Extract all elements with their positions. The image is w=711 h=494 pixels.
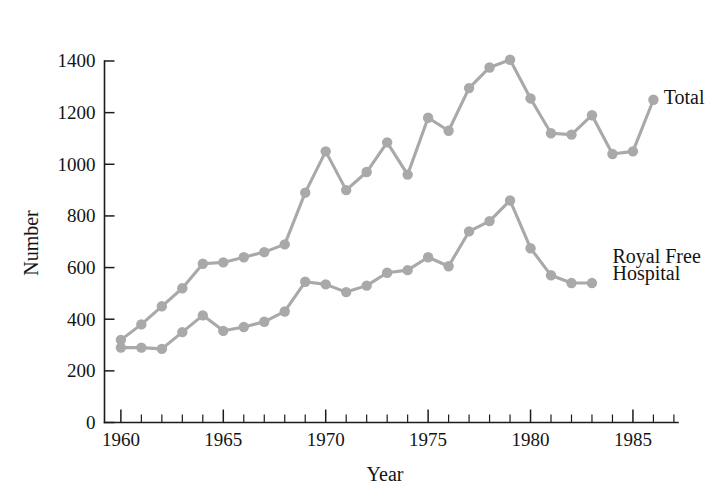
- x-axis-tick-label: 1980: [512, 429, 550, 450]
- series-label: Total: [664, 86, 705, 108]
- series-data-point: [525, 243, 535, 253]
- series-data-point: [443, 126, 453, 136]
- series-data-point: [280, 239, 290, 249]
- y-axis-tick-label: 1000: [58, 154, 96, 175]
- x-axis-tick-label: 1970: [307, 429, 345, 450]
- series-data-point: [382, 137, 392, 147]
- series-data-point: [628, 146, 638, 156]
- series-data-point: [423, 113, 433, 123]
- series-data-point: [382, 268, 392, 278]
- series-data-point: [259, 317, 269, 327]
- series-data-point: [546, 128, 556, 138]
- series-data-point: [361, 280, 371, 290]
- series-data-point: [546, 270, 556, 280]
- series-data-point: [177, 327, 187, 337]
- series-data-point: [566, 129, 576, 139]
- y-axis-tick-label: 1200: [58, 102, 96, 123]
- series-data-point: [341, 287, 351, 297]
- series-data-point: [136, 319, 146, 329]
- x-axis-title: Year: [367, 463, 404, 485]
- series-data-point: [300, 277, 310, 287]
- x-axis-tick-label: 1985: [614, 429, 652, 450]
- series-data-point: [587, 278, 597, 288]
- series-line: [121, 60, 654, 340]
- series-data-point: [402, 265, 412, 275]
- series-annotations: TotalRoyal FreeHospital: [612, 86, 704, 285]
- series-data-point: [566, 278, 576, 288]
- series-data-point: [341, 185, 351, 195]
- series-data-point: [218, 326, 228, 336]
- series-data-point: [280, 306, 290, 316]
- series-data-point: [239, 322, 249, 332]
- series-data-point: [116, 342, 126, 352]
- series-line: [121, 200, 592, 348]
- series-data-point: [361, 167, 371, 177]
- series-data-point: [218, 257, 228, 267]
- x-axis-tick-label: 1965: [204, 429, 242, 450]
- data-series: [116, 55, 659, 355]
- x-axis-tick-label: 1975: [409, 429, 447, 450]
- series-data-point: [648, 95, 658, 105]
- line-chart: 0200400600800100012001400196019651970197…: [0, 0, 711, 494]
- y-axis-tick-label: 600: [67, 257, 96, 278]
- series-data-point: [300, 187, 310, 197]
- series-data-point: [484, 216, 494, 226]
- y-axis-tick-label: 200: [67, 360, 96, 381]
- series-data-point: [402, 169, 412, 179]
- series-data-point: [423, 252, 433, 262]
- series-data-point: [136, 342, 146, 352]
- series-data-point: [505, 195, 515, 205]
- y-axis-tick-label: 1400: [58, 50, 96, 71]
- y-axis-title: Number: [20, 210, 42, 276]
- series-data-point: [198, 310, 208, 320]
- chart-container: 0200400600800100012001400196019651970197…: [0, 0, 711, 494]
- series-data-point: [484, 62, 494, 72]
- series-data-point: [464, 83, 474, 93]
- series-data-point: [198, 259, 208, 269]
- series-data-point: [177, 283, 187, 293]
- series-data-point: [525, 93, 535, 103]
- series-data-point: [607, 149, 617, 159]
- y-axis-tick-label: 400: [67, 309, 96, 330]
- series-total: [116, 55, 659, 346]
- tick-labels: 0200400600800100012001400196019651970197…: [58, 50, 652, 449]
- series-data-point: [321, 279, 331, 289]
- series-data-point: [157, 344, 167, 354]
- x-axis-tick-label: 1960: [102, 429, 140, 450]
- series-data-point: [321, 146, 331, 156]
- series-data-point: [239, 252, 249, 262]
- series-data-point: [505, 55, 515, 65]
- series-royal-free-hospital: [116, 195, 597, 354]
- series-data-point: [443, 261, 453, 271]
- y-axis-tick-label: 800: [67, 205, 96, 226]
- series-data-point: [259, 247, 269, 257]
- series-data-point: [587, 110, 597, 120]
- y-axis-tick-label: 0: [86, 412, 96, 433]
- series-data-point: [157, 301, 167, 311]
- series-data-point: [464, 226, 474, 236]
- series-label: Hospital: [612, 262, 680, 285]
